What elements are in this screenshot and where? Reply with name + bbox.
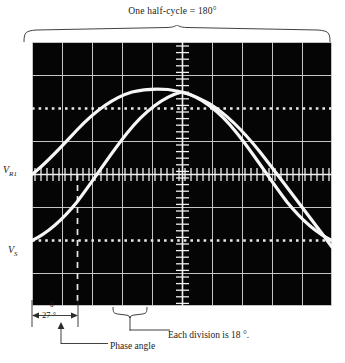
- oscilloscope-figure: One half-cycle = 180°: [0, 0, 345, 363]
- theta-symbol: θ: [50, 300, 54, 309]
- phase-angle-value: 27 °: [42, 310, 56, 320]
- vr1-subscript: R1: [9, 170, 17, 178]
- channel-label-vr1: VR1: [3, 164, 17, 178]
- division-label: Each division is 18 °.: [168, 330, 249, 340]
- division-leader: [112, 316, 172, 340]
- phase-angle-label: Phase angle: [110, 341, 155, 351]
- half-cycle-brace: [22, 25, 332, 43]
- scope-screen: [32, 42, 332, 306]
- channel-label-vs: VS: [8, 244, 18, 258]
- top-caption: One half-cycle = 180°: [0, 6, 345, 16]
- vs-subscript: S: [14, 250, 18, 258]
